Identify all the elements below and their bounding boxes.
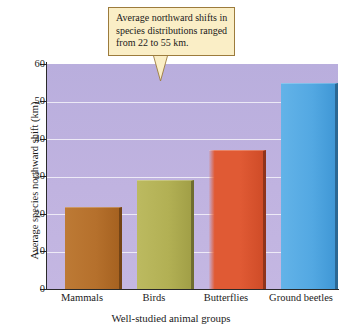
bar-face-birds — [137, 180, 194, 289]
bar-face-ground-beetles — [281, 83, 338, 289]
bar-group-butterflies — [209, 64, 266, 289]
bar-group-ground-beetles — [281, 64, 338, 289]
y-tick-label-0: 0 — [40, 284, 45, 295]
bar-face-butterflies — [209, 150, 266, 289]
bar-ground-beetles[interactable] — [281, 83, 338, 289]
bar-face-mammals — [65, 207, 122, 290]
bar-group-mammals — [65, 64, 122, 289]
bar-chart-figure: 60 50 40 30 20 10 0 Average species nort… — [0, 0, 342, 334]
bar-mammals[interactable] — [65, 207, 122, 290]
annotation-line-1: Average northward shifts in — [116, 12, 228, 25]
annotation-line-2: species distributions ranged — [116, 25, 228, 38]
bar-group-birds — [137, 64, 194, 289]
x-axis-line — [41, 289, 339, 290]
bar-birds[interactable] — [137, 180, 194, 289]
y-axis-title: Average species northward shift (km) — [29, 66, 40, 296]
x-tick-label-ground-beetles: Ground beetles — [262, 292, 340, 303]
annotation-callout: Average northward shifts in species dist… — [108, 7, 235, 56]
x-tick-label-butterflies: Butterflies — [190, 292, 262, 303]
y-axis-line — [46, 62, 47, 290]
x-tick-label-birds: Birds — [118, 292, 190, 303]
plot-area — [47, 64, 338, 289]
bar-butterflies[interactable] — [209, 150, 266, 289]
x-axis-title: Well-studied animal groups — [0, 312, 342, 324]
x-tick-label-mammals: Mammals — [46, 292, 118, 303]
annotation-line-3: from 22 to 55 km. — [116, 37, 228, 50]
